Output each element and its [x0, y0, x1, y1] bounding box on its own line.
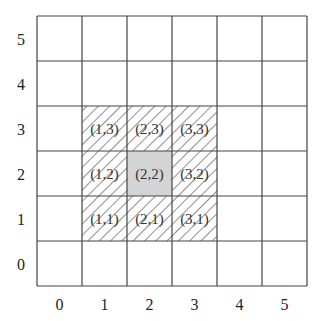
cell-coordinate-label: (3,2): [180, 166, 209, 183]
y-axis-label: 5: [17, 31, 25, 48]
x-axis-label: 1: [101, 296, 109, 313]
x-axis-label: 4: [236, 296, 244, 313]
y-axis-label: 0: [17, 256, 25, 273]
cell-coordinate-label: (2,3): [135, 121, 164, 138]
cell-coordinate-label: (1,3): [90, 121, 119, 138]
x-axis-label: 0: [56, 296, 64, 313]
cell-coordinate-label: (1,1): [90, 211, 119, 228]
grid-lines: [37, 16, 307, 286]
grid-diagram: 012345012345 (1,3)(2,3)(3,3)(1,2)(3,2)(1…: [0, 0, 323, 321]
y-axis-label: 1: [17, 211, 25, 228]
y-axis-label: 2: [17, 166, 25, 183]
x-axis-label: 2: [146, 296, 154, 313]
cell-coordinate-label: (2,1): [135, 211, 164, 228]
cell-coordinate-label: (1,2): [90, 166, 119, 183]
cell-coordinate-label: (2,2): [135, 166, 164, 183]
y-axis-label: 3: [17, 121, 25, 138]
cell-coordinate-label: (3,3): [180, 121, 209, 138]
x-axis-label: 3: [191, 296, 199, 313]
cell-coordinate-label: (3,1): [180, 211, 209, 228]
y-axis-label: 4: [17, 76, 25, 93]
x-axis-label: 5: [281, 296, 289, 313]
